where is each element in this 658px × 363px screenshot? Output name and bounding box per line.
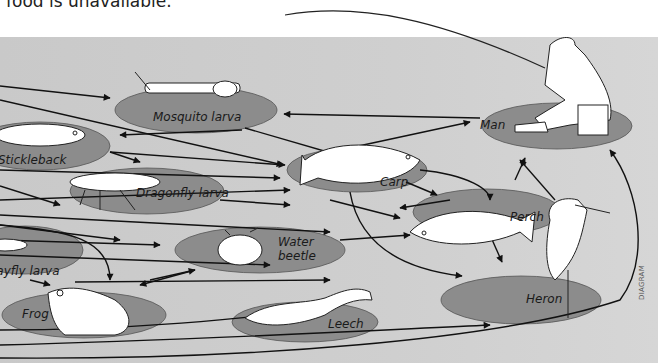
food-web-diagram (0, 0, 658, 363)
label-heron: Heron (526, 293, 562, 306)
label-leech: Leech (328, 318, 364, 331)
node-heron (441, 276, 601, 324)
label-dragonfly-larva: Dragonfly larva (136, 187, 229, 200)
label-frog: Frog (22, 308, 49, 321)
mosquito-larva-icon (135, 72, 240, 97)
fishing-rod (285, 11, 545, 68)
label-water-beetle-line1: Water (278, 236, 314, 249)
label-mayfly-larva: Mayfly larva (0, 265, 60, 278)
label-mosquito-larva: Mosquito larva (153, 111, 241, 124)
label-carp: Carp (380, 176, 408, 189)
watermark: DIAGRAM (638, 265, 646, 300)
label-man: Man (480, 119, 505, 132)
label-stickleback: Stickleback (0, 154, 66, 167)
label-water-beetle-line2: beetle (278, 250, 316, 263)
label-perch: Perch (510, 211, 544, 224)
stickleback-icon (0, 124, 85, 146)
